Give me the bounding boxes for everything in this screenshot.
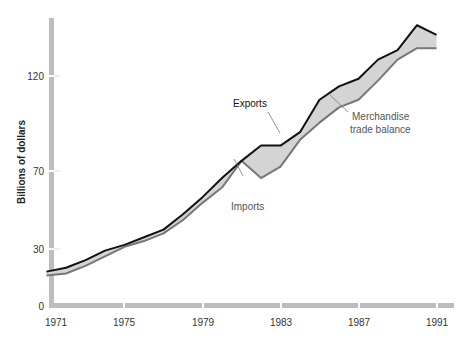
exports-leader-line [268, 112, 280, 133]
x-axis-bar [49, 303, 454, 308]
x-tick-label-1979: 1979 [192, 317, 215, 328]
x-tick-label-1991: 1991 [426, 317, 449, 328]
y-tick-label-0: 0 [38, 301, 44, 312]
y-tick-label-70: 70 [33, 166, 45, 177]
x-tick-label-1983: 1983 [270, 317, 293, 328]
x-tick-label-1975: 1975 [113, 317, 136, 328]
x-tick-label-1987: 1987 [348, 317, 371, 328]
x-tick-notch-1983 [280, 300, 282, 309]
y-tick-label-30: 30 [33, 244, 45, 255]
trade-balance-label-line1: Merchandise [352, 111, 410, 122]
y-axis-title: Billions of dollars [16, 120, 27, 204]
imports-label: Imports [231, 201, 264, 212]
x-tick-notch-1987 [358, 300, 360, 309]
chart-canvas: 120 70 30 0 Billions of dollars 1971 197… [0, 0, 469, 343]
x-tick-label-1971: 1971 [45, 317, 68, 328]
x-tick-notch-1979 [202, 300, 204, 309]
y-tick-label-120: 120 [27, 71, 44, 82]
exports-label: Exports [233, 98, 267, 109]
trade-balance-label-line2: trade balance [350, 124, 411, 135]
x-tick-notch-1975 [123, 300, 125, 309]
x-tick-notch-1991 [436, 300, 438, 309]
y-axis-bar [49, 18, 54, 308]
trade-balance-area [47, 25, 437, 275]
